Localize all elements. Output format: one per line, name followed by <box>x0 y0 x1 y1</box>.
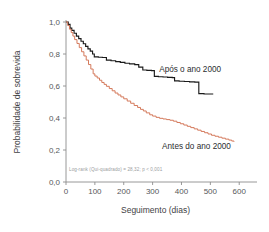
x-axis-ticks: 0100200300400500600 <box>64 182 247 196</box>
x-tick-label: 500 <box>204 187 218 196</box>
y-tick-label: 1,0 <box>49 18 61 27</box>
x-tick-label: 400 <box>175 187 189 196</box>
survival-chart: 0,00,20,40,60,81,0 0100200300400500600 A… <box>0 0 269 232</box>
y-tick-label: 0,2 <box>49 146 61 155</box>
y-tick-label: 0,4 <box>49 114 61 123</box>
logrank-annotation: Log-rank (Qui-quadrado) = 28,32; p < 0,0… <box>69 167 163 172</box>
x-tick-label: 100 <box>88 187 102 196</box>
series-label: Antes do ano 2000 <box>162 142 231 151</box>
y-tick-label: 0,6 <box>49 82 61 91</box>
curve-before-2000 <box>66 22 234 142</box>
x-tick-label: 300 <box>146 187 160 196</box>
survival-curves <box>66 22 234 142</box>
y-tick-label: 0,0 <box>49 178 61 187</box>
chart-canvas: 0,00,20,40,60,81,0 0100200300400500600 A… <box>0 0 269 232</box>
series-label: Após o ano 2000 <box>159 65 221 74</box>
y-tick-label: 0,8 <box>49 50 61 59</box>
x-axis-title: Seguimento (dias) <box>121 205 190 215</box>
x-tick-label: 0 <box>64 187 69 196</box>
x-tick-label: 200 <box>117 187 131 196</box>
x-tick-label: 600 <box>233 187 247 196</box>
y-axis-ticks: 0,00,20,40,60,81,0 <box>49 18 66 187</box>
y-axis-title: Probabilidade de sobrevida <box>12 50 22 153</box>
series-labels: Após o ano 2000Antes do ano 2000 <box>159 65 231 151</box>
curve-after-2000 <box>66 22 213 94</box>
